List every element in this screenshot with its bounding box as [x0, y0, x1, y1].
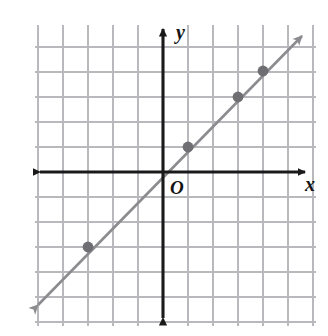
x-axis-label: x: [304, 173, 315, 195]
coordinate-graph: y x O: [0, 0, 328, 336]
data-point: [258, 66, 269, 77]
data-point: [183, 142, 194, 153]
data-point: [233, 92, 244, 103]
origin-label: O: [170, 177, 184, 198]
y-axis-label: y: [174, 21, 185, 44]
data-point: [83, 242, 94, 253]
figure-container: 3.: [0, 0, 328, 336]
